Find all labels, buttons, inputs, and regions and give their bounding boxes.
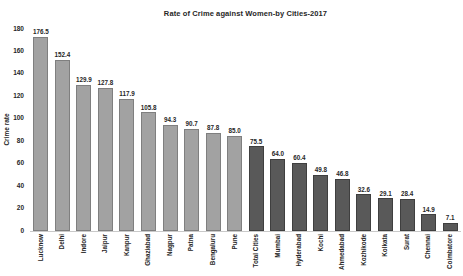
bar-value-label: 85.0 [229,128,241,134]
x-category-label: Indore [81,234,87,253]
bar [292,163,307,231]
x-label-cell: Mumbai [267,232,289,276]
bar-value-label: 117.9 [119,91,134,97]
x-category-label: Hyderabad [296,234,302,267]
x-label-cell: Chennai [418,232,440,276]
bar-group-kochi: 49.8 [310,29,332,231]
bar-group-ghaziabad: 105.8 [138,29,160,231]
bar [421,214,436,231]
bar-value-label: 90.7 [185,121,197,127]
bar-group-indore: 129.9 [73,29,95,231]
y-tick-label: 0 [20,228,24,235]
bar [119,99,134,231]
x-category-label: Kozhikode [361,234,367,266]
bar [206,133,221,232]
bar [141,112,156,231]
x-label-cell: Delhi [52,232,74,276]
bar [249,146,264,231]
bar-value-label: 127.8 [98,80,114,86]
x-label-cell: Indore [73,232,95,276]
x-category-label: Mumbai [275,234,281,258]
x-label-cell: Jaipur [95,232,117,276]
x-label-cell: Ghaziabad [138,232,160,276]
x-category-label: Delhi [59,234,65,249]
bar-value-label: 129.9 [76,77,92,83]
x-category-label: Ghaziabad [145,234,151,266]
bar-group-kanpur: 117.9 [116,29,138,231]
chart-title: Rate of Crime against Women-by Cities-20… [30,9,461,18]
y-tick-label: 80 [17,138,24,145]
x-label-cell: Kozhikode [353,232,375,276]
bar-value-label: 14.9 [422,207,434,213]
bar-group-nagpur: 94.3 [159,29,181,231]
bar [76,85,91,231]
x-category-label: Nagpur [167,234,173,256]
x-label-cell: Surat [396,232,418,276]
bar-group-pune: 85.0 [224,29,246,231]
bar-group-delhi: 152.4 [52,29,74,231]
bar-group-patna: 90.7 [181,29,203,231]
bar [270,159,285,231]
x-label-cell: Bengaluru [202,232,224,276]
x-category-label: Kochi [318,234,324,252]
bar-group-ahmedabad: 46.8 [332,29,354,231]
x-category-label: Total Cities [253,234,259,267]
x-category-label: Patna [188,234,194,251]
y-tick-label: 120 [13,93,24,100]
bar [443,223,458,231]
x-category-label: Lucknow [38,234,44,261]
bar-value-label: 46.8 [336,171,348,177]
bar-value-label: 28.4 [401,191,413,197]
bar [335,179,350,232]
x-label-cell: Pune [224,232,246,276]
x-label-cell: Hyderabad [289,232,311,276]
x-category-label: Kanpur [124,234,130,256]
bar-group-chennai: 14.9 [418,29,440,231]
bar [184,129,199,231]
x-label-cell: Lucknow [30,232,52,276]
bar-value-label: 64.0 [272,151,284,157]
x-category-label: Chennai [425,234,431,259]
y-tick-label: 180 [13,26,24,33]
bar-value-label: 32.6 [358,187,370,193]
x-category-label: Coimbatore [447,234,453,269]
bar [163,125,178,231]
bar-group-kolkata: 29.1 [375,29,397,231]
bar-value-label: 60.4 [293,155,305,161]
bar-value-label: 105.8 [141,105,157,111]
bar [98,88,113,231]
y-tick-label: 140 [13,71,24,78]
bar-group-hyderabad: 60.4 [289,29,311,231]
bars-container: 176.5152.4129.9127.8117.9105.894.390.787… [30,29,461,231]
bar-value-label: 29.1 [379,191,391,197]
bar [33,37,48,231]
bar-chart: Rate of Crime against Women-by Cities-20… [0,0,463,276]
bar-group-jaipur: 127.8 [95,29,117,231]
bar-group-bengaluru: 87.8 [202,29,224,231]
bar-group-total-cities: 75.5 [245,29,267,231]
bar [378,198,393,231]
x-label-cell: Kolkata [375,232,397,276]
bar-value-label: 49.8 [315,167,327,173]
x-label-cell: Total Cities [245,232,267,276]
bar-value-label: 87.8 [207,125,219,131]
bar-group-surat: 28.4 [396,29,418,231]
bar [227,136,242,231]
bar-group-lucknow: 176.5 [30,29,52,231]
x-category-label: Surat [404,234,410,250]
bar-value-label: 94.3 [164,117,176,123]
bar-value-label: 176.5 [33,29,49,35]
x-label-cell: Kochi [310,232,332,276]
plot-area: 176.5152.4129.9127.8117.9105.894.390.787… [30,29,461,232]
x-category-label: Pune [232,234,238,249]
x-label-cell: Kanpur [116,232,138,276]
x-label-cell: Patna [181,232,203,276]
bar [356,194,371,231]
y-tick-label: 40 [17,183,24,190]
x-axis-labels: LucknowDelhiIndoreJaipurKanpurGhaziabadN… [30,232,461,276]
bar-group-coimbatore: 7.1 [439,29,461,231]
bar-value-label: 7.1 [446,215,455,221]
bar [313,175,328,231]
bar-group-kozhikode: 32.6 [353,29,375,231]
x-category-label: Bengaluru [210,234,216,265]
